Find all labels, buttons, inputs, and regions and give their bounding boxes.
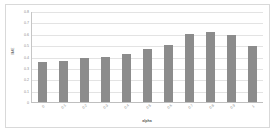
bar[interactable]: [59, 61, 68, 102]
x-tick-slot: 0: [31, 105, 52, 118]
y-axis-tick-label: 0.1: [24, 90, 29, 94]
bar[interactable]: [38, 62, 47, 102]
y-axis-tick-label: 0.2: [24, 78, 29, 82]
bar-slot: [32, 12, 53, 102]
bar-slot: [221, 12, 242, 102]
x-tick-slot: 0.2: [73, 105, 94, 118]
x-axis-tick-label: 0.1: [61, 103, 67, 109]
bar-slot: [242, 12, 263, 102]
bar[interactable]: [164, 45, 173, 102]
x-axis-tick-label: 0.2: [82, 103, 88, 109]
x-tick-slot: 0.6: [158, 105, 179, 118]
y-axis-tick-labels: 00.10.20.30.40.50.60.70.8: [16, 12, 30, 103]
bar[interactable]: [206, 32, 215, 102]
x-axis-tick-label: 1: [252, 104, 256, 108]
x-axis-tick-label: 0.6: [166, 103, 172, 109]
bar[interactable]: [143, 49, 152, 102]
x-axis-title: alpha: [31, 119, 263, 123]
bar[interactable]: [227, 35, 236, 102]
y-axis-tick-label: 0.7: [24, 21, 29, 25]
y-axis-tick-label: 0: [27, 101, 29, 105]
y-axis-tick-label: 0.5: [24, 44, 29, 48]
bar-slot: [179, 12, 200, 102]
bar[interactable]: [185, 34, 194, 102]
x-tick-slot: 0.5: [136, 105, 157, 118]
bar[interactable]: [122, 54, 131, 102]
y-axis-tick-label: 0.4: [24, 56, 29, 60]
x-tick-slot: 0.7: [179, 105, 200, 118]
x-axis-tick-label: 0: [41, 104, 45, 108]
plot-area: [31, 12, 263, 103]
bar-slot: [53, 12, 74, 102]
bar-slot: [158, 12, 179, 102]
x-axis-tick-label: 0.5: [145, 103, 151, 109]
x-axis-tick-label: 0.8: [208, 103, 214, 109]
bar-slot: [116, 12, 137, 102]
x-axis-tick-label: 0.4: [124, 103, 130, 109]
chart-container: MAE 00.10.20.30.40.50.60.70.8 00.10.20.3…: [5, 4, 270, 128]
bar-slot: [74, 12, 95, 102]
x-tick-slot: 0.1: [52, 105, 73, 118]
x-tick-slot: 1: [242, 105, 263, 118]
x-tick-slot: 0.3: [94, 105, 115, 118]
bar-series: [32, 12, 263, 102]
y-axis-tick-label: 0.3: [24, 67, 29, 71]
bar[interactable]: [248, 46, 257, 102]
bar-slot: [200, 12, 221, 102]
bar-slot: [95, 12, 116, 102]
x-tick-slot: 0.8: [200, 105, 221, 118]
x-axis-tick-label: 0.7: [187, 103, 193, 109]
bar[interactable]: [80, 58, 89, 102]
y-axis-title: MAE: [11, 36, 15, 66]
x-tick-slot: 0.9: [221, 105, 242, 118]
x-axis-tick-label: 0.9: [229, 103, 235, 109]
y-axis-tick-label: 0.6: [24, 33, 29, 37]
x-tick-slot: 0.4: [115, 105, 136, 118]
x-axis-tick-label: 0.3: [103, 103, 109, 109]
y-axis-tick-label: 0.8: [24, 10, 29, 14]
bar[interactable]: [101, 57, 110, 103]
bar-slot: [137, 12, 158, 102]
x-axis-tick-labels: 00.10.20.30.40.50.60.70.80.91: [31, 105, 263, 118]
